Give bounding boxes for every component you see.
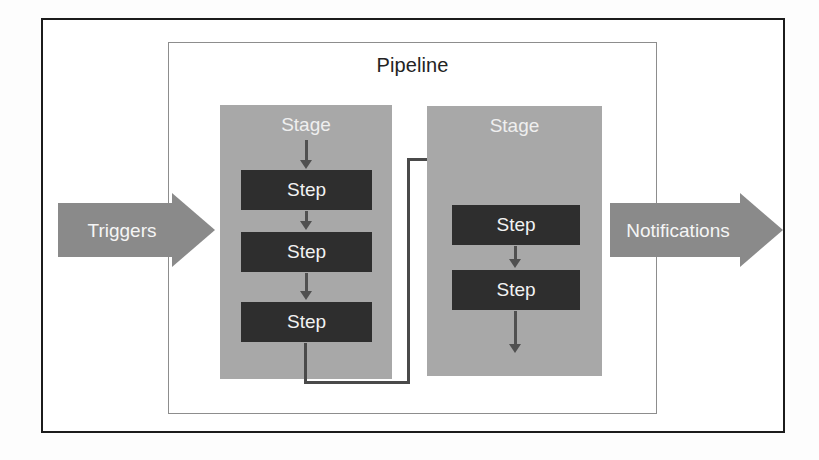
notifications-arrow: Notifications	[610, 187, 790, 273]
triggers-arrow-head	[172, 193, 215, 267]
stage-label-1: Stage	[220, 114, 392, 136]
stage2-connector-line-1	[514, 246, 517, 260]
stage1-arrowhead-2	[300, 291, 312, 300]
step-box-2-1: Step	[452, 205, 580, 245]
triggers-arrow: Triggers	[58, 187, 216, 273]
stage1-entry-connector-line	[305, 140, 308, 162]
stage2-arrowhead-1	[509, 259, 521, 268]
stage1-connector-line-2	[305, 273, 308, 292]
step-box-2-2: Step	[452, 270, 580, 310]
stage1-arrowhead-1	[300, 221, 312, 230]
pipeline-title: Pipeline	[168, 54, 657, 77]
step-box-1-2: Step	[241, 232, 372, 272]
diagram-canvas: Pipeline Stage Step Step Step Stage Step…	[0, 0, 819, 460]
notifications-arrow-head	[740, 193, 783, 267]
step-box-1-3: Step	[241, 302, 372, 342]
stage2-exit-arrowhead	[509, 344, 521, 353]
stage-label-2: Stage	[427, 115, 602, 137]
stage2-exit-connector-line	[514, 311, 517, 346]
stage-link-segment-down-1	[304, 343, 307, 384]
stage1-entry-arrowhead	[300, 160, 312, 169]
stage-link-segment-up	[407, 158, 410, 384]
step-box-1-1: Step	[241, 170, 372, 210]
stage-link-segment-right-1	[304, 381, 410, 384]
triggers-arrow-label: Triggers	[72, 220, 172, 242]
notifications-arrow-label: Notifications	[616, 220, 740, 242]
